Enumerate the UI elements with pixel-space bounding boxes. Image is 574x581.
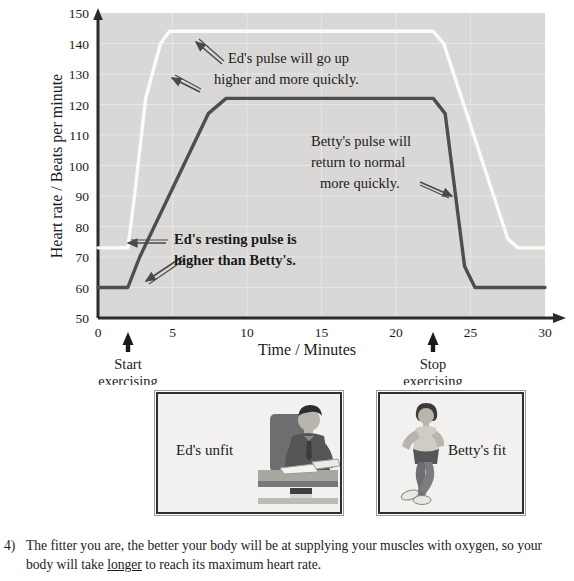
betty-pulse-annotation-line1: Betty's pulse will	[311, 133, 411, 149]
footnote-text-after: to reach its maximum heart rate.	[142, 557, 321, 572]
x-axis-tick-label: 15	[315, 325, 329, 340]
y-axis-tick-label: 70	[76, 250, 90, 265]
footnote-emphasis: longer	[107, 557, 142, 572]
man-at-desk-icon	[254, 402, 340, 508]
x-axis-tick-label: 25	[464, 325, 478, 340]
x-axis-tick-label: 0	[95, 325, 102, 340]
ed-unfit-panel: Ed's unfit	[156, 392, 342, 514]
stop-exercising-arrow-icon	[428, 332, 439, 352]
stop-exercising-label-line2: exercising	[403, 373, 463, 385]
footnote-marker: 4)	[4, 536, 15, 555]
x-axis-tick-label: 10	[240, 325, 254, 340]
y-axis-tick-label: 110	[69, 128, 89, 143]
chart-canvas: 5060708090100110120130140150 05101520253…	[0, 0, 574, 385]
y-axis-tick-label: 140	[69, 37, 90, 52]
betty-pulse-annotation-line2: return to normal	[311, 154, 405, 170]
ed-pulse-annotation-line1: Ed's pulse will go up	[228, 50, 349, 66]
y-axis-tick-label: 50	[76, 311, 90, 326]
y-axis-tick-label: 100	[69, 159, 90, 174]
stop-exercising-marker: Stop exercising	[403, 332, 463, 385]
betty-pulse-annotation-line3: more quickly.	[320, 175, 400, 191]
woman-running-icon	[394, 402, 458, 508]
heart-rate-chart: 5060708090100110120130140150 05101520253…	[0, 0, 574, 385]
ed-resting-annotation-line2: higher than Betty's.	[174, 252, 296, 268]
start-exercising-label-line2: exercising	[98, 373, 158, 385]
x-axis-tick-label: 5	[169, 325, 176, 340]
x-axis-tick-label: 30	[538, 325, 552, 340]
ed-unfit-caption: Ed's unfit	[176, 442, 233, 459]
worksheet-page: 5060708090100110120130140150 05101520253…	[0, 0, 574, 581]
stop-exercising-label-line1: Stop	[420, 356, 447, 372]
betty-fit-panel: Betty's fit	[378, 392, 524, 514]
y-axis-tick-labels: 5060708090100110120130140150	[69, 6, 90, 326]
y-axis-title: Heart rate / Beats per minute	[48, 74, 66, 258]
x-axis-tick-labels: 051015202530	[95, 325, 552, 340]
y-axis-tick-label: 90	[76, 189, 90, 204]
x-axis-title: Time / Minutes	[258, 341, 356, 358]
y-axis-tick-label: 120	[69, 98, 90, 113]
x-axis-tick-label: 20	[389, 325, 403, 340]
start-exercising-label-line1: Start	[114, 356, 141, 372]
y-axis-tick-label: 130	[69, 67, 90, 82]
y-axis-tick-label: 80	[76, 220, 90, 235]
y-axis-tick-label: 150	[69, 6, 90, 21]
illustration-panels: Ed's unfit	[0, 392, 574, 520]
footnote-body: The fitter you are, the better your body…	[4, 536, 570, 575]
footnote: 4) The fitter you are, the better your b…	[4, 536, 570, 575]
ed-pulse-annotation-line2: higher and more quickly.	[214, 71, 359, 87]
start-exercising-arrow-icon	[123, 332, 134, 352]
ed-resting-annotation-line1: Ed's resting pulse is	[174, 231, 297, 247]
start-exercising-marker: Start exercising	[98, 332, 158, 385]
y-axis-tick-label: 60	[76, 281, 90, 296]
